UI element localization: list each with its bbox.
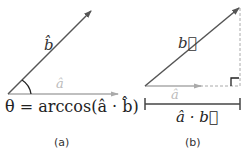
right-angle-marker: [231, 78, 239, 86]
vector-a-hat-label: â: [56, 77, 64, 90]
projection-label: â · b⃗: [176, 110, 218, 125]
caption-b: (b): [185, 137, 201, 148]
angle-theta-arc: [22, 80, 31, 94]
vector-a-hat-label-b: â: [171, 88, 179, 101]
caption-a: (a): [54, 137, 69, 148]
panel-b: [145, 8, 240, 110]
vector-b-hat-label: b̂: [44, 38, 54, 53]
theta-formula: θ = arccos(â · b̂): [5, 99, 139, 115]
diagram-canvas: [0, 0, 246, 159]
vector-b-label: b⃗: [178, 36, 197, 51]
